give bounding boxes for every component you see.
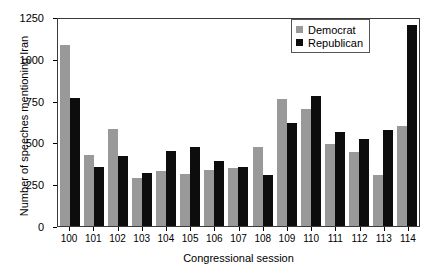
- x-tick-mark: [384, 227, 385, 231]
- y-tick-label: 500: [26, 137, 44, 149]
- x-tick-label: 102: [105, 233, 129, 244]
- bar-republican-103: [142, 173, 152, 227]
- bar-democrat-106: [204, 170, 214, 226]
- x-tick-mark: [239, 227, 240, 231]
- x-tick-label: 113: [372, 233, 396, 244]
- bar-republican-111: [335, 132, 345, 226]
- bar-group: [202, 19, 226, 226]
- x-tick-label: 112: [347, 233, 371, 244]
- x-tick-label: 107: [226, 233, 250, 244]
- x-tick-mark: [311, 227, 312, 231]
- x-tick-mark: [287, 227, 288, 231]
- bar-democrat-101: [84, 155, 94, 226]
- x-tick-label: 109: [275, 233, 299, 244]
- bar-democrat-109: [277, 99, 287, 226]
- bar-republican-105: [190, 147, 200, 226]
- bar-democrat-104: [156, 171, 166, 226]
- bar-republican-107: [238, 167, 248, 226]
- bar-group: [82, 19, 106, 226]
- y-tick-label: 1000: [20, 54, 44, 66]
- x-tick-mark: [408, 227, 409, 231]
- x-tick-mark: [142, 227, 143, 231]
- bar-group: [226, 19, 250, 226]
- bar-democrat-113: [373, 175, 383, 226]
- x-tick-label: 106: [202, 233, 226, 244]
- y-tick-mark: [53, 18, 57, 19]
- y-tick-mark: [53, 60, 57, 61]
- x-tick-label: 111: [323, 233, 347, 244]
- bar-group: [251, 19, 275, 226]
- bar-republican-102: [118, 156, 128, 226]
- legend-label-democrat: Democrat: [308, 24, 356, 36]
- chart-legend: Democrat Republican: [291, 19, 370, 53]
- bar-republican-101: [94, 167, 104, 226]
- y-tick-label: 0: [38, 221, 44, 233]
- y-tick-mark: [53, 143, 57, 144]
- x-tick-label: 101: [81, 233, 105, 244]
- x-tick-label: 114: [396, 233, 420, 244]
- x-tick-mark: [335, 227, 336, 231]
- bar-democrat-103: [132, 178, 142, 226]
- y-tick-label: 1250: [20, 12, 44, 24]
- legend-label-republican: Republican: [308, 37, 363, 49]
- bar-republican-109: [287, 123, 297, 226]
- x-tick-label: 100: [57, 233, 81, 244]
- bar-democrat-108: [253, 147, 263, 226]
- x-tick-mark: [118, 227, 119, 231]
- y-tick-label: 750: [26, 96, 44, 108]
- bar-group: [154, 19, 178, 226]
- x-tick-label: 108: [251, 233, 275, 244]
- x-tick-mark: [166, 227, 167, 231]
- y-tick-label: 250: [26, 179, 44, 191]
- bar-group: [130, 19, 154, 226]
- legend-swatch-democrat: [296, 26, 303, 33]
- x-tick-label: 110: [299, 233, 323, 244]
- bar-democrat-110: [301, 109, 311, 226]
- x-axis-title: Congressional session: [57, 252, 420, 264]
- x-tick-mark: [93, 227, 94, 231]
- x-tick-mark: [360, 227, 361, 231]
- x-tick-label: 103: [130, 233, 154, 244]
- bar-democrat-111: [325, 144, 335, 226]
- bar-democrat-105: [180, 174, 190, 226]
- bar-group: [106, 19, 130, 226]
- y-axis-tick-labels: 025050075010001250: [0, 0, 48, 273]
- y-tick-mark: [53, 185, 57, 186]
- bar-republican-110: [311, 96, 321, 226]
- x-tick-label: 104: [154, 233, 178, 244]
- bar-republican-112: [359, 139, 369, 226]
- bar-group: [58, 19, 82, 226]
- bar-democrat-102: [108, 129, 118, 226]
- x-tick-mark: [190, 227, 191, 231]
- bar-republican-106: [214, 161, 224, 226]
- bar-group: [395, 19, 419, 226]
- legend-item-republican: Republican: [296, 36, 363, 49]
- y-tick-mark: [53, 227, 57, 228]
- bar-democrat-114: [397, 126, 407, 226]
- bar-chart-figure: Number of speeches mentioning Iran 02505…: [0, 0, 424, 273]
- bar-democrat-100: [60, 45, 70, 226]
- legend-item-democrat: Democrat: [296, 23, 363, 36]
- bar-democrat-107: [228, 168, 238, 226]
- x-tick-mark: [69, 227, 70, 231]
- bar-group: [178, 19, 202, 226]
- y-tick-mark: [53, 102, 57, 103]
- bar-republican-108: [263, 175, 273, 226]
- bar-democrat-112: [349, 152, 359, 226]
- bar-group: [371, 19, 395, 226]
- x-tick-mark: [263, 227, 264, 231]
- x-tick-mark: [214, 227, 215, 231]
- bar-republican-113: [383, 130, 393, 226]
- bar-republican-100: [70, 98, 80, 226]
- legend-swatch-republican: [296, 39, 303, 46]
- bar-republican-104: [166, 151, 176, 226]
- bar-republican-114: [407, 25, 417, 226]
- x-tick-label: 105: [178, 233, 202, 244]
